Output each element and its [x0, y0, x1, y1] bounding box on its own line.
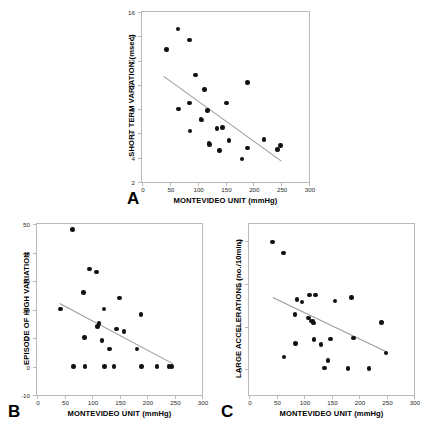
scatter-point — [100, 338, 105, 343]
panel-letter-a: A — [127, 190, 139, 207]
scatter-point — [97, 321, 102, 326]
x-tick-c: 150 — [332, 395, 333, 399]
x-tick-b: 150 — [120, 395, 121, 399]
x-tick-label-c: 100 — [300, 400, 310, 406]
x-tick-a: 300 — [309, 182, 310, 186]
scatter-point — [139, 364, 144, 369]
scatter-point — [122, 329, 127, 334]
scatter-point — [300, 300, 305, 305]
x-tick-c: 0 — [249, 395, 250, 399]
panel-letter-c: C — [221, 403, 233, 420]
scatter-point — [155, 364, 160, 369]
scatter-point — [307, 293, 312, 298]
panel-c: 0123050100150200250300 LARGE ACCELERATIO… — [215, 212, 429, 431]
y-tick-label-a: 2 — [132, 180, 135, 186]
y-axis-title-a: SHORT TERM VARIATION (msec) — [127, 11, 136, 181]
scatter-point — [117, 296, 122, 301]
scatter-point — [139, 312, 144, 317]
scatter-point — [293, 312, 298, 317]
x-tick-b: 300 — [202, 395, 203, 399]
scatter-point — [215, 126, 220, 131]
x-tick-label-a: 100 — [193, 187, 203, 193]
scatter-point — [135, 347, 140, 352]
x-tick-a: 150 — [226, 182, 227, 186]
x-tick-c: 200 — [359, 395, 360, 399]
x-tick-label-c: 300 — [410, 400, 420, 406]
x-tick-label-a: 150 — [221, 187, 231, 193]
scatter-point — [346, 366, 351, 371]
scatter-point — [278, 143, 283, 148]
scatter-point — [187, 101, 192, 106]
scatter-point — [311, 321, 316, 326]
x-tick-label-c: 200 — [355, 400, 365, 406]
x-tick-a: 200 — [253, 182, 254, 186]
x-tick-label-b: 50 — [62, 400, 69, 406]
scatter-point — [281, 251, 286, 256]
x-tick-label-b: 0 — [36, 400, 39, 406]
x-tick-c: 250 — [387, 395, 388, 399]
scatter-point — [87, 267, 92, 272]
x-tick-b: 250 — [175, 395, 176, 399]
scatter-point — [312, 337, 317, 342]
scatter-point — [202, 87, 207, 92]
scatter-point — [245, 146, 250, 151]
x-tick-label-b: 250 — [170, 400, 180, 406]
scatter-point — [240, 157, 245, 162]
x-tick-label-c: 150 — [327, 400, 337, 406]
scatter-point — [187, 38, 192, 43]
scatter-point — [81, 290, 86, 295]
scatter-point — [112, 364, 117, 369]
x-tick-b: 200 — [147, 395, 148, 399]
scatter-point — [224, 101, 229, 106]
panel-letter-b: B — [8, 403, 20, 420]
panel-a: 246810121416050100150200250300 SHORT TER… — [0, 0, 429, 212]
x-tick-c: 300 — [414, 395, 415, 399]
x-tick-label-a: 200 — [249, 187, 259, 193]
scatter-point — [94, 270, 99, 275]
scatter-point — [169, 364, 174, 369]
scatter-point — [58, 307, 63, 312]
scatter-point — [245, 80, 250, 85]
x-tick-label-a: 50 — [167, 187, 174, 193]
x-tick-c: 100 — [304, 395, 305, 399]
scatter-point — [199, 118, 204, 123]
scatter-point — [70, 227, 75, 232]
scatter-point — [313, 293, 318, 298]
x-tick-c: 50 — [277, 395, 278, 399]
scatter-point — [102, 307, 107, 312]
x-tick-label-b: 100 — [88, 400, 98, 406]
scatter-point — [328, 337, 333, 342]
scatter-point — [349, 295, 354, 300]
scatter-point — [71, 364, 76, 369]
scatter-point — [207, 142, 212, 147]
scatter-point — [293, 341, 298, 346]
data-points-c — [249, 224, 414, 395]
data-points-b — [37, 224, 202, 395]
x-tick-a: 50 — [170, 182, 171, 186]
scatter-point — [367, 366, 372, 371]
y-axis-title-c: LARGE ACCELERATIONS (no./10min) — [234, 223, 243, 394]
scatter-point — [282, 355, 287, 360]
x-tick-b: 100 — [92, 395, 93, 399]
scatter-point — [220, 125, 225, 130]
x-tick-a: 100 — [198, 182, 199, 186]
x-axis-title-c: MONTEVIDEO UNIT (mmHg) — [248, 409, 415, 418]
scatter-point — [333, 299, 338, 304]
plot-area-b: -1001020304050050100150200250300 — [36, 223, 203, 396]
scatter-point — [217, 148, 222, 153]
y-axis-title-b: EPISODE OF HIGH VARIATION — [22, 223, 31, 394]
panel-b: -1001020304050050100150200250300 EPISODE… — [0, 212, 215, 431]
x-tick-label-a: 0 — [141, 187, 144, 193]
x-tick-label-b: 300 — [198, 400, 208, 406]
x-tick-label-c: 50 — [274, 400, 281, 406]
scatter-point — [82, 335, 87, 340]
scatter-point — [319, 342, 324, 347]
scatter-point — [176, 107, 181, 112]
x-tick-label-a: 250 — [277, 187, 287, 193]
x-tick-label-c: 250 — [382, 400, 392, 406]
x-tick-a: 0 — [142, 182, 143, 186]
plot-area-a: 246810121416050100150200250300 — [141, 11, 310, 183]
figure-three-panel-scatter: 246810121416050100150200250300 SHORT TER… — [0, 0, 429, 431]
x-tick-label-b: 150 — [115, 400, 125, 406]
scatter-point — [295, 297, 300, 302]
